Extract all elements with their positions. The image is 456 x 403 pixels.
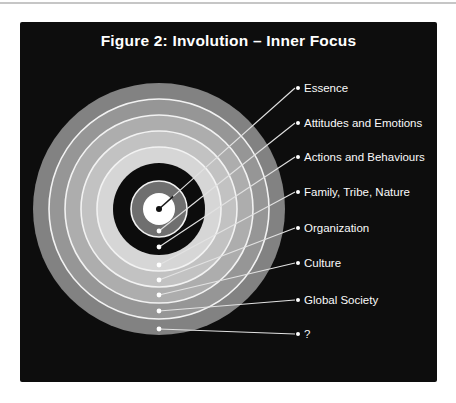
ring-label-6: Culture xyxy=(304,255,341,271)
ring-label-5: Organization xyxy=(304,220,369,236)
diagram-labels: EssenceAttitudes and EmotionsActions and… xyxy=(20,22,437,382)
ring-label-1: Essence xyxy=(304,80,348,96)
ring-label-4: Family, Tribe, Nature xyxy=(304,184,410,200)
page-divider xyxy=(0,2,456,4)
ring-label-8: ? xyxy=(304,326,310,342)
ring-label-7: Global Society xyxy=(304,292,378,308)
ring-label-3: Actions and Behaviours xyxy=(304,149,425,165)
ring-label-2: Attitudes and Emotions xyxy=(304,115,422,131)
figure-box: Figure 2: Involution – Inner Focus Essen… xyxy=(20,22,437,382)
